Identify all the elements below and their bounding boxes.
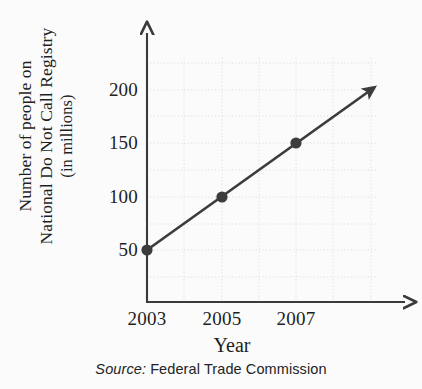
- y-tick-label-150: 150: [92, 132, 138, 154]
- source-label: Source:: [95, 361, 146, 377]
- x-tick-label-2003: 2003: [115, 308, 179, 330]
- plot-area: [0, 0, 422, 389]
- x-tick-label-2007: 2007: [264, 308, 328, 330]
- source-caption: Source: Federal Trade Commission: [0, 361, 422, 377]
- chart-figure: Number of people on National Do Not Call…: [0, 0, 422, 389]
- source-value: Federal Trade Commission: [146, 361, 327, 377]
- data-trend-line: [147, 92, 368, 250]
- y-tick-label-100: 100: [92, 186, 138, 208]
- y-tick-label-200: 200: [92, 79, 138, 101]
- vertical-gridlines: [184, 58, 371, 300]
- y-tick-label-50: 50: [92, 239, 138, 261]
- data-point-2003: [141, 244, 152, 255]
- horizontal-gridlines: [147, 63, 378, 277]
- data-point-2007: [290, 137, 301, 148]
- x-tick-label-2005: 2005: [190, 308, 254, 330]
- x-axis-title: Year: [172, 334, 292, 357]
- data-point-2005: [216, 191, 227, 202]
